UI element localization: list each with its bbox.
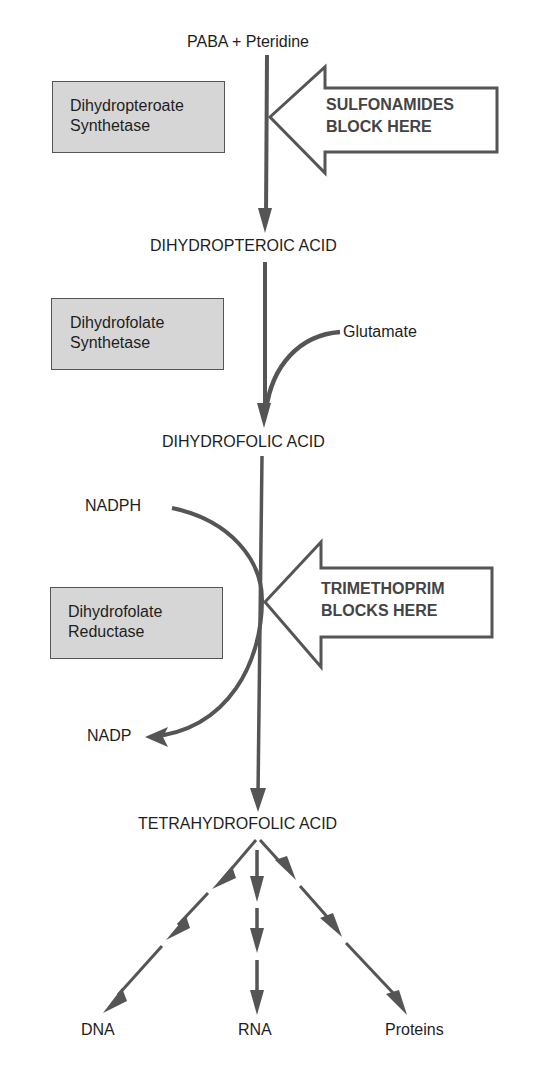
intermediate-tetrahydrofolic-acid: TETRAHYDROFOLIC ACID xyxy=(138,815,337,833)
product-dna: DNA xyxy=(81,1021,115,1039)
enzyme-box-dihydropteroate-synthetase: Dihydropteroate Synthetase xyxy=(52,81,225,153)
enzyme-name-line2: Synthetase xyxy=(70,116,224,136)
arrow-paba-to-dihydropteroic xyxy=(258,55,272,233)
cofactor-nadp: NADP xyxy=(87,727,131,745)
product-proteins: Proteins xyxy=(385,1021,444,1039)
trimethoprim-label: TRIMETHOPRIM BLOCKS HERE xyxy=(321,578,445,622)
cofactor-nadph: NADPH xyxy=(85,497,141,515)
intermediate-dihydropteroic-acid: DIHYDROPTEROIC ACID xyxy=(150,237,337,255)
enzyme-name-line2: Synthetase xyxy=(70,333,223,353)
enzyme-box-dihydrofolate-reductase: Dihydrofolate Reductase xyxy=(50,587,223,659)
intermediate-dihydrofolic-acid: DIHYDROFOLIC ACID xyxy=(162,433,325,451)
pathway-arrows xyxy=(0,0,537,1067)
enzyme-name-line2: Reductase xyxy=(68,622,222,642)
enzyme-name-line1: Dihydrofolate xyxy=(68,602,222,622)
sulfonamides-label: SULFONAMIDES BLOCK HERE xyxy=(326,94,454,138)
product-rna: RNA xyxy=(238,1021,272,1039)
enzyme-box-dihydrofolate-synthetase: Dihydrofolate Synthetase xyxy=(51,298,224,370)
arrows-tetrahydrofolic-to-products xyxy=(103,840,407,1015)
substrate-paba-pteridine: PABA + Pteridine xyxy=(187,33,309,51)
substrate-glutamate: Glutamate xyxy=(343,323,417,341)
arrow-dihydropteroic-to-dihydrofolic xyxy=(257,262,340,428)
enzyme-name-line1: Dihydrofolate xyxy=(70,313,223,333)
enzyme-name-line1: Dihydropteroate xyxy=(70,96,224,116)
